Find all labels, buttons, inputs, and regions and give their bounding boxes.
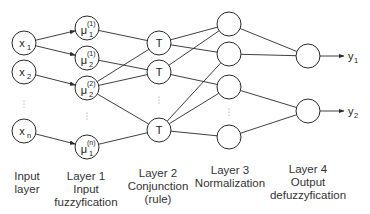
ellipsis-dot <box>86 112 87 113</box>
ellipsis-dot <box>23 100 24 101</box>
svg-text:2: 2 <box>354 111 358 120</box>
edge-T1-N1 <box>171 27 218 40</box>
ellipsis-dot <box>228 108 229 109</box>
normalization-node-N4 <box>217 125 241 149</box>
fuzzification-node-m11: μ1(1) <box>75 16 99 40</box>
edge-xn-m1n <box>36 134 76 144</box>
edge-N2-O1 <box>241 54 296 55</box>
defuzzification-node-O2 <box>296 99 320 123</box>
input-node-x1: x1 <box>12 31 36 55</box>
normalization-node-N3 <box>217 75 241 99</box>
ellipsis-dot <box>86 118 87 119</box>
rule-node-T3: T <box>147 118 171 142</box>
output-arrows: y1y2 <box>320 50 358 120</box>
svg-text:2: 2 <box>89 60 93 69</box>
svg-text:(1): (1) <box>87 50 96 58</box>
edge-m1n-T3 <box>99 133 148 144</box>
svg-text:1: 1 <box>27 43 31 52</box>
svg-text:T: T <box>156 37 163 49</box>
layer-captions: InputlayerLayer 1InputfuzzyficationLayer… <box>14 163 346 208</box>
fuzzification-node-m21: μ2(1) <box>75 46 99 70</box>
edge-N4-O2 <box>240 115 296 133</box>
edge-T3-N4 <box>171 131 217 136</box>
ellipsis-dot <box>23 103 24 104</box>
normalization-node-N2 <box>217 42 241 66</box>
svg-text:1: 1 <box>89 149 93 158</box>
normalization-node-N1 <box>217 12 241 36</box>
ellipsis-markers <box>23 96 229 119</box>
nodes: x1x2xnμ1(1)μ2(1)μ2(2)μ1(n)TTT <box>12 12 320 159</box>
svg-text:(1): (1) <box>87 20 96 28</box>
input-node-xn: xn <box>12 119 36 143</box>
caption-layer-2: Layer 2Conjunction(rule) <box>128 167 189 205</box>
edge-N3-O2 <box>240 90 296 107</box>
svg-text:x: x <box>19 66 25 78</box>
edge-T2-N1 <box>169 31 219 65</box>
svg-text:n: n <box>27 131 31 140</box>
fuzzification-node-m22: μ2(2) <box>75 76 99 100</box>
edge-T2-N3 <box>171 75 218 85</box>
edge-x2-m22 <box>36 75 76 85</box>
rule-node-T1: T <box>147 31 171 55</box>
caption-input-layer: Inputlayer <box>14 170 40 195</box>
caption-layer-1: Layer 1Inputfuzzyfication <box>54 170 117 208</box>
svg-text:1: 1 <box>354 56 358 65</box>
svg-text:x: x <box>19 125 25 137</box>
ellipsis-dot <box>158 102 159 103</box>
input-node-x2: x2 <box>12 60 36 84</box>
caption-layer-3: Layer 3Normalization <box>195 164 265 189</box>
svg-text:T: T <box>156 124 163 136</box>
defuzzification-node-O1 <box>296 44 320 68</box>
ellipsis-dot <box>228 114 229 115</box>
rule-node-T2: T <box>147 60 171 84</box>
edge-m22-T1 <box>97 49 149 81</box>
svg-text:2: 2 <box>27 72 31 81</box>
anfis-network-diagram: x1x2xnμ1(1)μ2(1)μ2(2)μ1(n)TTT y1y2 Input… <box>0 0 370 214</box>
fuzzification-node-m1n: μ1(n) <box>75 135 99 159</box>
edge-m11-T1 <box>99 30 148 40</box>
edge-N1-O1 <box>240 29 297 52</box>
edge-m22-T3 <box>97 94 148 124</box>
ellipsis-dot <box>23 106 24 107</box>
ellipsis-dot <box>158 96 159 97</box>
ellipsis-dot <box>158 99 159 100</box>
ellipsis-dot <box>228 111 229 112</box>
edge-x1-m21 <box>36 46 76 55</box>
edge-x1-m11 <box>36 31 76 40</box>
svg-text:T: T <box>156 66 163 78</box>
svg-text:x: x <box>19 37 25 49</box>
svg-text:(2): (2) <box>87 80 96 88</box>
svg-text:(n): (n) <box>87 139 96 147</box>
svg-text:2: 2 <box>89 90 93 99</box>
edge-T3-N3 <box>169 93 219 123</box>
caption-layer-4: Layer 4Outputdefuzzyfication <box>270 163 346 201</box>
svg-text:1: 1 <box>89 30 93 39</box>
ellipsis-dot <box>86 115 87 116</box>
edge-T3-N2 <box>167 63 221 121</box>
